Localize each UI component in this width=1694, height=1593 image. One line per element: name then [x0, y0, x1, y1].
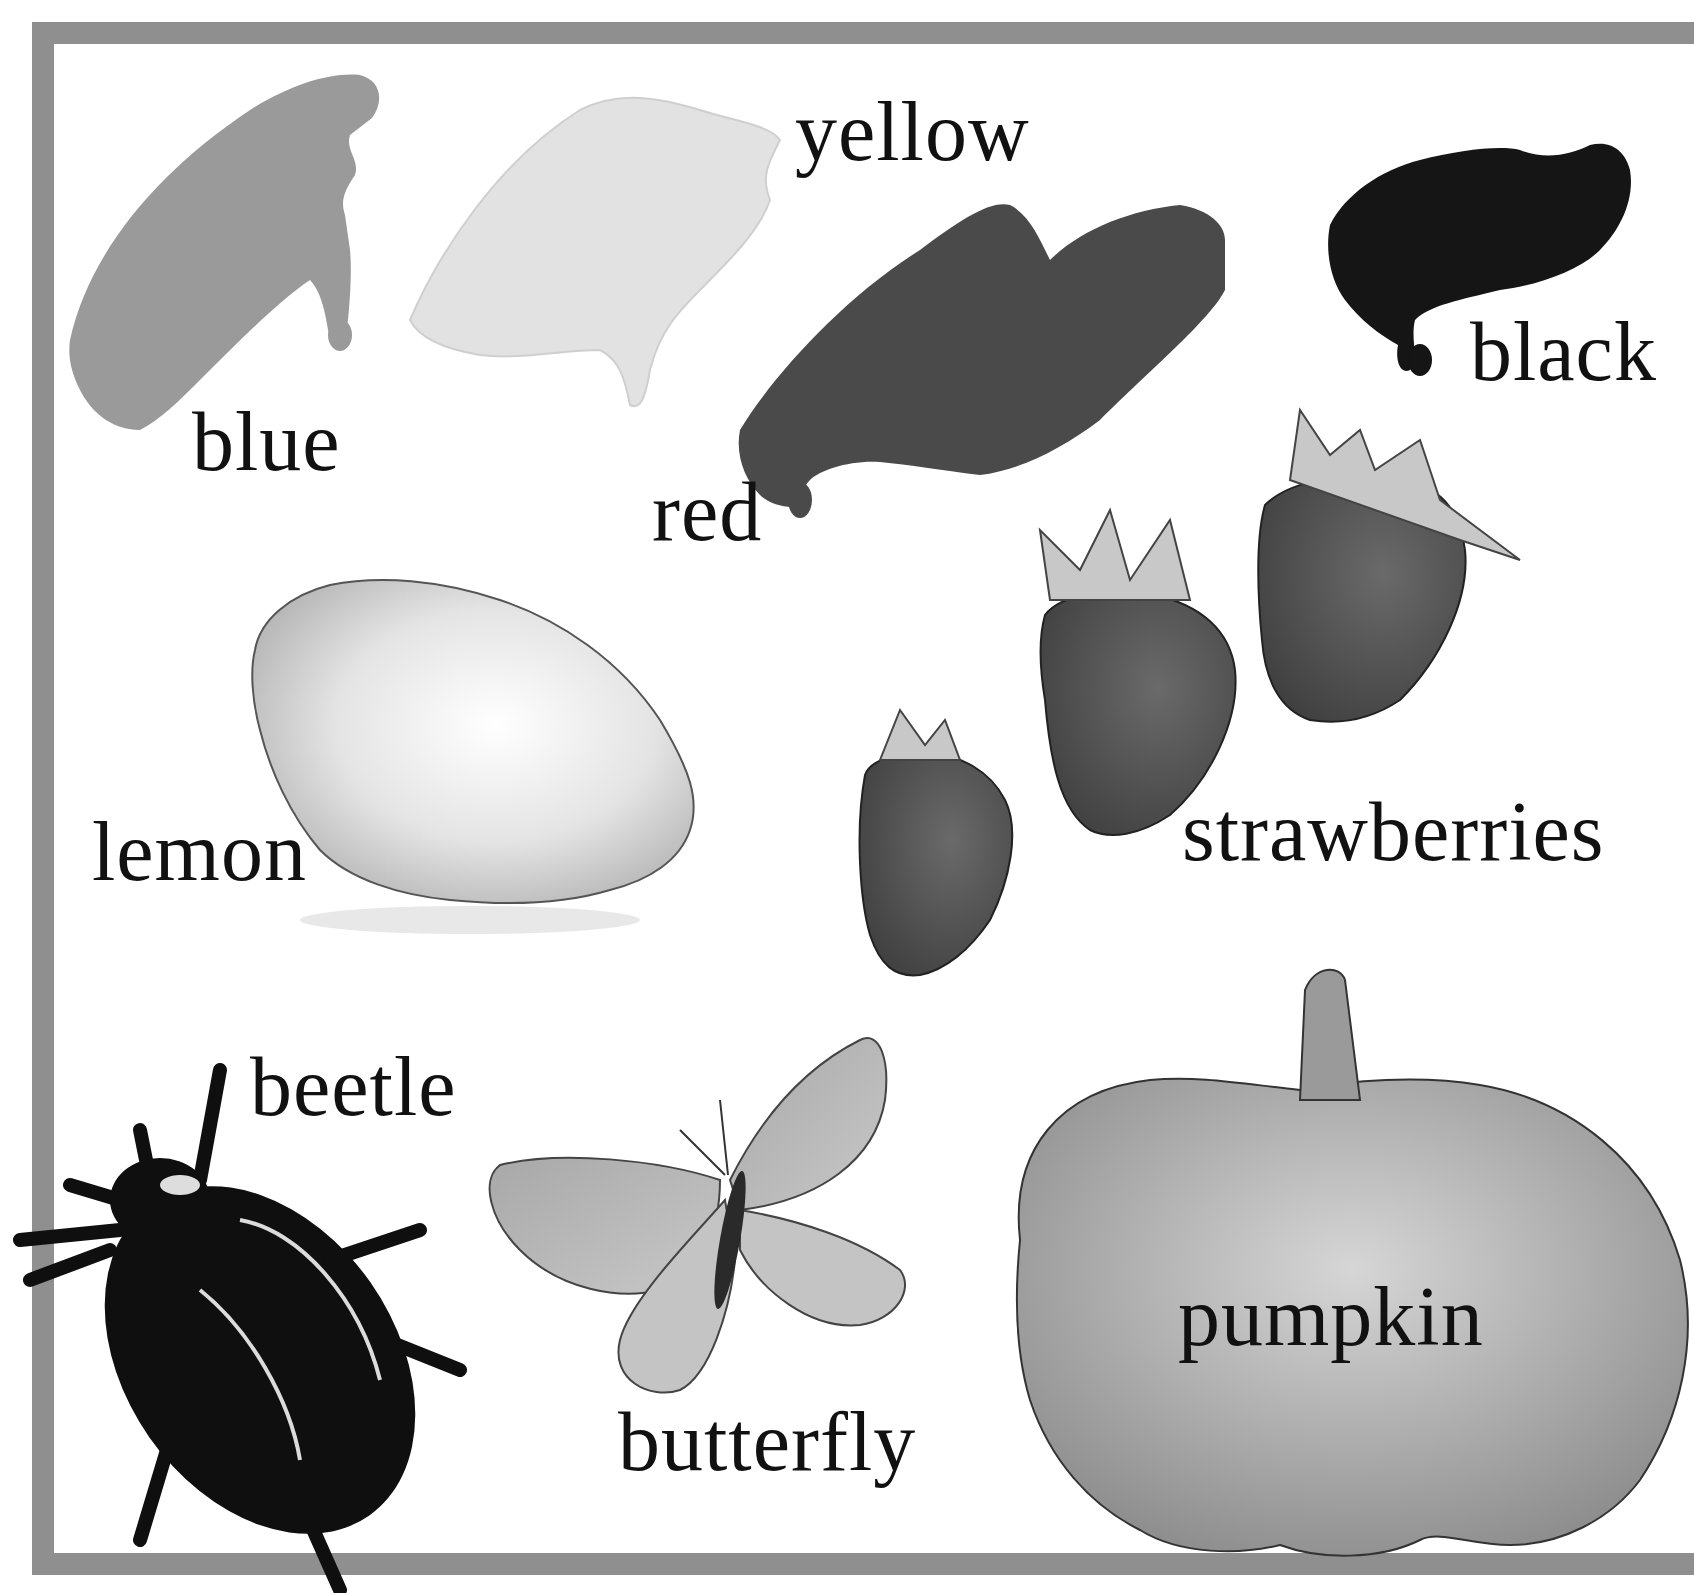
vocabulary-page: blue yellow red black lemon strawberries… — [0, 0, 1694, 1593]
label-black: black — [1470, 310, 1657, 394]
red-paint-swatch-icon — [739, 204, 1225, 518]
label-yellow: yellow — [795, 90, 1030, 174]
lemon-icon — [252, 580, 693, 934]
label-pumpkin: pumpkin — [1178, 1275, 1484, 1359]
label-red: red — [652, 470, 762, 554]
beetle-icon — [20, 1070, 480, 1593]
label-lemon: lemon — [92, 810, 307, 894]
strawberry-icon — [1258, 410, 1520, 722]
label-blue: blue — [192, 400, 341, 484]
strawberry-icon — [860, 710, 1013, 975]
pumpkin-icon — [1017, 970, 1688, 1556]
label-beetle: beetle — [250, 1045, 457, 1129]
label-strawberries: strawberries — [1182, 790, 1604, 874]
butterfly-icon — [490, 1038, 905, 1392]
yellow-paint-swatch-icon — [410, 98, 780, 406]
blue-paint-swatch-icon — [69, 75, 379, 430]
label-butterfly: butterfly — [618, 1400, 916, 1484]
